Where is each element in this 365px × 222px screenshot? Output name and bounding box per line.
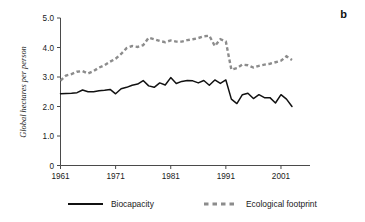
legend-label-ecological-footprint: Ecological footprint [246, 199, 317, 209]
chart-legend: Biocapacity Ecological footprint [68, 199, 317, 209]
x-axis-ticks: 19611971198119912001 [51, 166, 290, 181]
y-tick-label: 0 [49, 162, 54, 171]
x-tick-label: 1961 [51, 172, 70, 181]
y-tick-label: 4.0 [43, 44, 55, 53]
y-axis-title: Global hectares per person [19, 46, 28, 138]
chart-figure: Global hectares per person 01.02.03.04.0… [0, 0, 365, 222]
y-tick-label: 2.0 [43, 103, 55, 112]
x-tick-label: 1971 [107, 172, 126, 181]
panel-label: b [340, 8, 347, 20]
y-tick-label: 1.0 [43, 132, 55, 141]
x-tick-label: 2001 [272, 172, 291, 181]
x-tick-label: 1991 [217, 172, 236, 181]
biocapacity-footprint-line-chart: Global hectares per person 01.02.03.04.0… [0, 0, 365, 222]
legend-label-biocapacity: Biocapacity [111, 199, 155, 209]
y-tick-label: 3.0 [43, 73, 55, 82]
x-tick-label: 1981 [162, 172, 181, 181]
y-tick-label: 5.0 [43, 14, 55, 23]
y-axis-ticks: 01.02.03.04.05.0 [43, 14, 61, 171]
series-line-biocapacity [61, 78, 293, 107]
series-line-ecological-footprint [61, 36, 293, 81]
